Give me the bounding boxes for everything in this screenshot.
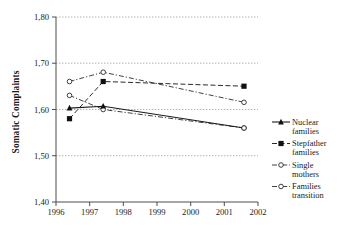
line-stepfather-families [70,82,245,119]
ytick-label-140: 1,40 [34,197,49,207]
line-families-transition [70,72,245,102]
ytick-label-150: 1,50 [34,151,49,161]
xtick-label-1999: 1999 [148,207,165,217]
legend-item-nuclear-families[interactable]: Nuclear families [272,118,319,136]
y-axis-ticks [52,17,56,202]
legend-marker-square-icon [278,141,283,146]
point-single-mothers-1996 [67,93,72,98]
xtick-label-2002: 2002 [249,207,266,217]
legend-label-single-mothers-line1: Single [292,161,314,170]
y-axis-title: Somatic Complaints [11,70,21,153]
legend-label-families-transition-line1: Families [292,182,321,191]
gridlines [56,17,258,156]
legend-label-families-transition-line2: transition [292,191,324,200]
xtick-label-1998: 1998 [115,207,132,217]
x-axis-ticks [56,202,258,206]
series-nuclear-families [67,103,247,130]
ytick-label-170: 1,70 [34,58,49,68]
xtick-label-1997: 1997 [81,207,99,217]
xtick-label-2001: 2001 [216,207,233,217]
legend-label-single-mothers-line2: mothers [292,170,319,179]
legend-item-single-mothers[interactable]: Single mothers [272,161,319,179]
point-nuclear-families-2002 [242,126,247,131]
legend-marker-open-circle-icon [279,163,284,168]
legend-marker-open-circle-2-icon [279,184,284,189]
xtick-label-1996: 1996 [47,207,65,217]
point-families-transition-1997 [101,70,106,75]
point-families-transition-2002 [242,100,247,105]
point-stepfather-families-1997 [101,79,106,84]
point-stepfather-families-1996 [67,116,72,121]
legend-label-stepfather-families-line1: Stepfather [292,139,327,148]
x-tick-labels: 1996 1997 1998 1999 2000 2001 2002 [47,207,266,217]
legend-item-stepfather-families[interactable]: Stepfather families [272,139,327,157]
legend-item-families-transition[interactable]: Families transition [272,182,324,200]
point-stepfather-families-2002 [241,84,246,89]
legend-label-nuclear-families-line1: Nuclear [292,118,319,127]
legend-label-nuclear-families-line2: families [292,127,319,136]
line-single-mothers [70,95,245,128]
legend-label-stepfather-families-line2: families [292,148,319,157]
y-tick-labels: 1,80 1,70 1,60 1,50 1,40 [34,12,49,207]
xtick-label-2000: 2000 [182,207,199,217]
somatic-complaints-line-chart: 1,80 1,70 1,60 1,50 1,40 1996 1997 1998 … [0,0,341,226]
series-families-transition [67,70,246,105]
ytick-label-160: 1,60 [34,105,49,115]
point-nuclear-families-1997 [100,103,106,109]
point-families-transition-1996 [67,79,72,84]
chart-legend: Nuclear families Stepfather families Sin… [272,118,327,201]
ytick-label-180: 1,80 [34,12,49,22]
